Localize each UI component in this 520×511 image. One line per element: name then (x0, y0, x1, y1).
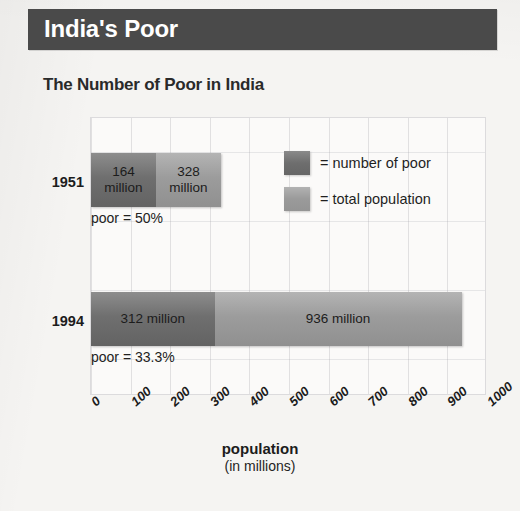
x-axis-title: population (in millions) (0, 440, 520, 474)
bar-segment-total-label-1994: 936 million (302, 311, 375, 327)
bar-note-1994: poor = 33.3% (91, 349, 462, 365)
chart-page: India's Poor The Number of Poor in India… (0, 0, 520, 511)
bar-1951[interactable]: 164 million 328 million (91, 153, 221, 207)
page-title: India's Poor (44, 15, 178, 43)
grid-hline (91, 290, 485, 291)
header-banner: India's Poor (28, 9, 497, 50)
x-tick-1000: 1000 (484, 379, 516, 409)
bar-segment-poor-label-1994: 312 million (117, 311, 190, 327)
legend-item-poor[interactable]: = number of poor (284, 151, 431, 175)
year-label-1951: 1951 (24, 174, 84, 190)
bar-1994[interactable]: 312 million 936 million (91, 292, 462, 346)
x-axis-title-main: population (0, 440, 520, 457)
legend-label-total: = total population (320, 191, 431, 207)
bar-group-1951: 164 million 328 million poor = 50% (91, 153, 221, 226)
x-tick-0: 0 (88, 393, 103, 409)
legend-swatch-poor-icon (284, 151, 310, 175)
x-axis-title-sub: (in millions) (0, 458, 520, 474)
legend-swatch-total-icon (284, 187, 310, 211)
bar-segment-poor-1994: 312 million (91, 292, 215, 346)
bar-segment-total-1951: 328 million (156, 153, 221, 207)
bar-segment-total-1994: 936 million (215, 292, 462, 346)
legend-label-poor: = number of poor (320, 155, 431, 171)
legend-item-total[interactable]: = total population (284, 187, 431, 211)
x-axis-ticks: 01002003004005006007008009001000 (90, 398, 486, 436)
year-label-1994: 1994 (24, 313, 84, 329)
bar-segment-poor-1951: 164 million (91, 153, 156, 207)
bar-segment-total-label-1951: 328 million (165, 164, 211, 196)
bar-group-1994: 312 million 936 million poor = 33.3% (91, 292, 462, 365)
chart-title: The Number of Poor in India (43, 75, 264, 95)
chart-legend: = number of poor = total population (284, 151, 431, 223)
bar-note-1951: poor = 50% (91, 210, 221, 226)
bar-segment-poor-label-1951: 164 million (100, 164, 146, 196)
plot-area: 164 million 328 million poor = 50% 312 m… (90, 117, 486, 395)
